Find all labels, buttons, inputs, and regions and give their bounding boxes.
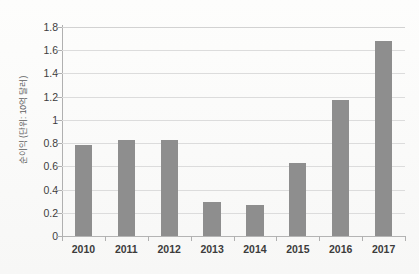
y-axis-tickmark [56, 73, 62, 74]
y-axis-tickmark [56, 213, 62, 214]
bar [246, 205, 263, 236]
x-axis-tickmark [405, 236, 406, 241]
x-axis-tickmark [276, 236, 277, 241]
x-axis-tickmark [319, 236, 320, 241]
y-axis-tickmark [56, 143, 62, 144]
y-axis-tickmark [56, 190, 62, 191]
y-axis-tickmark [56, 236, 62, 237]
x-axis-tickmark [234, 236, 235, 241]
bars-group [62, 27, 405, 236]
bar [332, 100, 349, 236]
y-axis-tickmark [56, 27, 62, 28]
bar-chart: 순이익 (단위: 10억 달러) 00.20.40.60.811.21.41.6… [0, 0, 419, 274]
x-axis-tickmarks [62, 236, 405, 241]
bar [203, 202, 220, 236]
bar [375, 41, 392, 236]
x-axis-tick-label: 2016 [329, 243, 352, 255]
bar [75, 145, 92, 236]
x-axis-tickmark [191, 236, 192, 241]
bar [118, 140, 135, 236]
plot-area [62, 27, 405, 236]
x-axis-tick-label: 2017 [372, 243, 395, 255]
y-axis-tickmark [56, 166, 62, 167]
y-axis-tickmark [56, 120, 62, 121]
x-axis-tick-label: 2014 [243, 243, 266, 255]
x-axis-tick-labels: 20102011201220132014201520162017 [62, 243, 405, 261]
x-axis-tick-label: 2013 [200, 243, 223, 255]
x-axis-tickmark [105, 236, 106, 241]
y-axis-tick-labels: 00.20.40.60.811.21.41.61.8 [28, 27, 58, 236]
y-axis-tickmark [56, 97, 62, 98]
x-axis-tick-label: 2012 [158, 243, 181, 255]
x-axis-tick-label: 2010 [72, 243, 95, 255]
x-axis-tick-label: 2011 [115, 243, 138, 255]
y-axis-tickmark [56, 50, 62, 51]
y-axis-title-text: 순이익 (단위: 10억 달러) [16, 76, 28, 165]
x-axis-tickmark [362, 236, 363, 241]
bar [161, 140, 178, 236]
bar [289, 163, 306, 236]
x-axis-tick-label: 2015 [286, 243, 309, 255]
x-axis-tickmark [148, 236, 149, 241]
x-axis-tickmark [62, 236, 63, 241]
